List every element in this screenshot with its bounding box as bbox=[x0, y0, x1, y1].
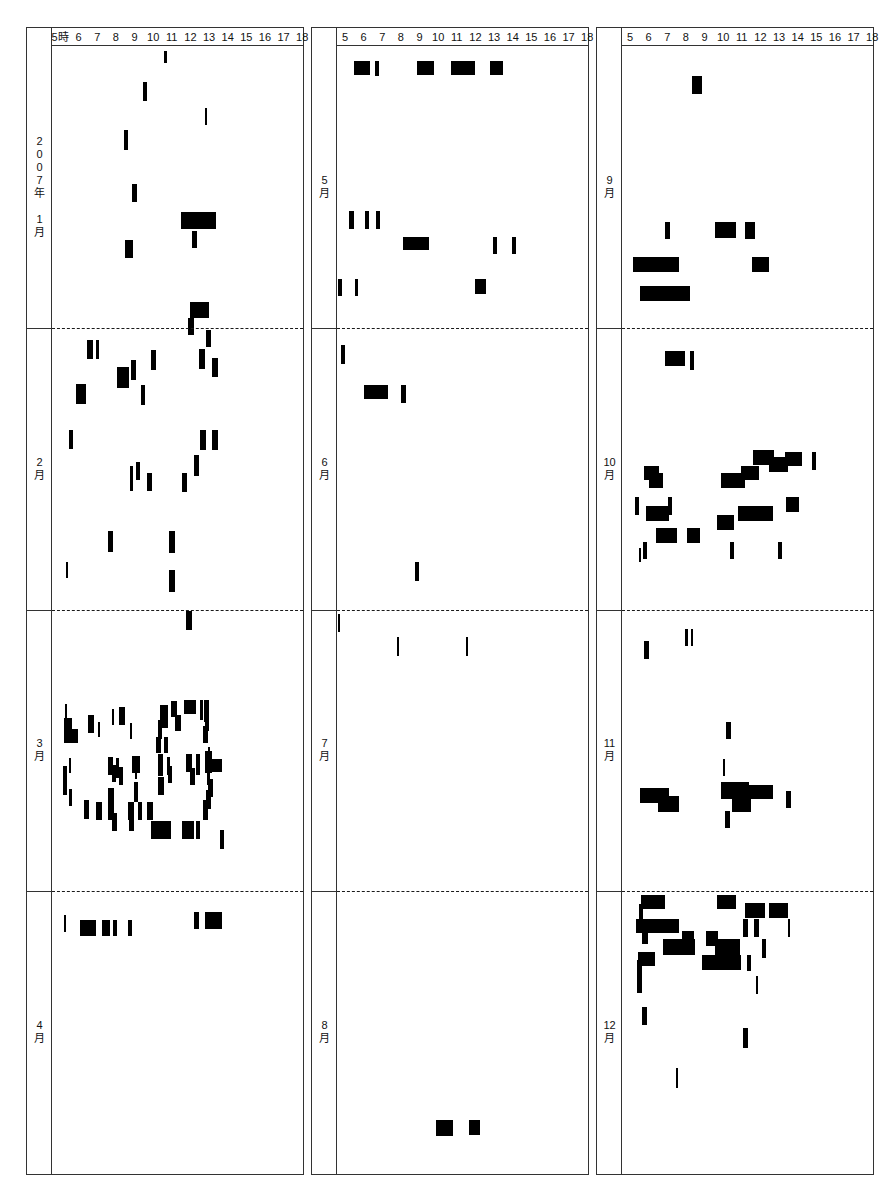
month-label-char: 3 bbox=[36, 737, 42, 750]
activity-mark bbox=[512, 237, 516, 254]
activity-mark bbox=[756, 976, 758, 994]
activity-mark bbox=[663, 939, 695, 954]
month-label-7: 7月 bbox=[312, 610, 337, 892]
month-label-char: 月 bbox=[604, 187, 615, 200]
activity-mark bbox=[194, 912, 199, 928]
panel-may-aug: 567891011121314151617185月6月7月8月 bbox=[311, 27, 589, 1175]
activity-mark bbox=[199, 349, 205, 369]
plot-area bbox=[52, 46, 303, 1174]
activity-mark bbox=[475, 279, 486, 294]
month-label-char: 2 bbox=[36, 135, 42, 148]
activity-mark bbox=[192, 231, 197, 248]
activity-mark bbox=[364, 385, 388, 399]
activity-mark bbox=[141, 385, 145, 405]
activity-mark bbox=[642, 928, 648, 944]
activity-mark bbox=[644, 641, 649, 658]
hour-tick-label-8: 8 bbox=[683, 29, 689, 45]
month-label-11: 11月 bbox=[597, 610, 622, 892]
activity-mark bbox=[715, 939, 740, 954]
activity-mark bbox=[355, 279, 359, 296]
activity-mark bbox=[741, 466, 759, 481]
month-block-1 bbox=[52, 46, 303, 328]
activity-mark bbox=[210, 759, 221, 772]
month-label-char: 0 bbox=[36, 148, 42, 161]
hour-tick-label-10: 10 bbox=[147, 29, 159, 45]
activity-mark bbox=[738, 506, 773, 521]
activity-mark bbox=[658, 796, 678, 812]
activity-mark bbox=[136, 462, 140, 479]
month-block-3 bbox=[52, 610, 303, 892]
hour-tick-label-13: 13 bbox=[773, 29, 785, 45]
activity-mark bbox=[490, 61, 503, 76]
activity-mark bbox=[80, 920, 96, 935]
activity-mark bbox=[158, 777, 164, 795]
activity-mark bbox=[665, 351, 685, 366]
activity-mark bbox=[745, 903, 765, 918]
activity-mark bbox=[812, 452, 816, 470]
hour-tick-label-16: 16 bbox=[829, 29, 841, 45]
month-label-char: 月 bbox=[319, 469, 330, 482]
month-label-char: 5 bbox=[321, 174, 327, 187]
activity-mark bbox=[147, 473, 152, 491]
activity-mark bbox=[690, 351, 694, 369]
activity-mark bbox=[365, 211, 369, 228]
activity-mark bbox=[752, 257, 769, 272]
hour-tick-label-11: 11 bbox=[736, 29, 747, 45]
activity-mark bbox=[376, 211, 380, 228]
month-label-char: 11 bbox=[604, 737, 615, 750]
activity-mark bbox=[182, 473, 187, 492]
month-label-char: 月 bbox=[319, 750, 330, 763]
activity-mark bbox=[164, 51, 167, 64]
activity-mark bbox=[147, 802, 153, 820]
activity-mark bbox=[102, 920, 109, 935]
activity-mark bbox=[69, 430, 74, 449]
activity-mark bbox=[117, 367, 129, 388]
hour-tick-label-13: 13 bbox=[203, 29, 215, 45]
activity-mark bbox=[212, 430, 218, 450]
activity-mark bbox=[702, 955, 741, 970]
hour-tick-label-12: 12 bbox=[184, 29, 196, 45]
activity-mark bbox=[341, 345, 346, 364]
activity-mark bbox=[132, 184, 137, 202]
activity-mark bbox=[745, 222, 755, 238]
activity-mark bbox=[119, 707, 125, 725]
activity-mark bbox=[354, 61, 370, 76]
activity-mark bbox=[641, 895, 665, 909]
hour-tick-label-16: 16 bbox=[259, 29, 271, 45]
activity-mark bbox=[96, 802, 102, 820]
activity-mark bbox=[715, 222, 735, 237]
activity-mark bbox=[349, 211, 354, 228]
activity-mark bbox=[743, 1028, 748, 1048]
activity-mark bbox=[143, 82, 147, 101]
hour-axis: 56789101112131415161718 bbox=[622, 28, 873, 46]
activity-mark bbox=[687, 528, 700, 543]
activity-mark bbox=[401, 385, 406, 403]
month-label-char: 月 bbox=[604, 469, 615, 482]
month-block-5 bbox=[337, 46, 588, 328]
activity-mark bbox=[76, 384, 86, 404]
activity-mark bbox=[665, 222, 671, 238]
activity-mark bbox=[692, 76, 702, 94]
month-label-2: 2月 bbox=[27, 328, 52, 610]
plot-area bbox=[622, 46, 873, 1174]
timeline-chart: 5時67891011121314151617182007年 1月2月3月4月56… bbox=[0, 0, 880, 1202]
month-label-char: 月 bbox=[34, 469, 45, 482]
activity-mark bbox=[451, 61, 475, 76]
activity-mark bbox=[212, 358, 218, 377]
month-block-11 bbox=[622, 610, 873, 892]
activity-mark bbox=[196, 754, 200, 775]
activity-mark bbox=[403, 237, 429, 251]
month-block-12 bbox=[622, 891, 873, 1173]
activity-mark bbox=[119, 767, 123, 785]
month-block-9 bbox=[622, 46, 873, 328]
activity-mark bbox=[186, 611, 192, 630]
month-label-char: 12 bbox=[603, 1019, 615, 1032]
activity-mark bbox=[138, 802, 143, 820]
activity-mark bbox=[635, 497, 639, 515]
activity-mark bbox=[786, 497, 799, 512]
month-label-char: 10 bbox=[603, 456, 615, 469]
hour-tick-label-7: 7 bbox=[379, 29, 385, 45]
activity-mark bbox=[717, 515, 734, 530]
activity-mark bbox=[158, 754, 163, 776]
hour-tick-label-15: 15 bbox=[525, 29, 537, 45]
